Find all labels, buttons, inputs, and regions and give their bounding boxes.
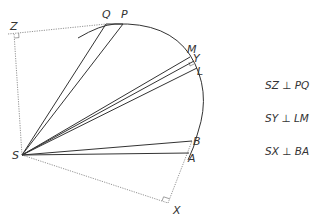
line-SZ	[14, 33, 22, 155]
label-Z: Z	[9, 20, 18, 33]
label-A: A	[187, 152, 196, 165]
orbit-curve	[78, 24, 203, 160]
sector-lines	[22, 24, 197, 155]
label-Y: Y	[193, 52, 201, 65]
label-X: X	[172, 204, 181, 217]
orbit-diagram: Z Q P M Y L S B A X	[0, 0, 316, 222]
line-SM	[22, 57, 190, 155]
label-B: B	[193, 135, 201, 148]
line-ZQ	[8, 24, 106, 34]
line-XA	[168, 141, 192, 203]
right-angle-marks	[15, 33, 195, 201]
line-SY	[22, 61, 194, 155]
relation-SX-BA: SX ⊥ BA	[265, 145, 309, 157]
line-SL	[22, 68, 197, 155]
label-L: L	[197, 65, 203, 78]
relation-SY-LM: SY ⊥ LM	[265, 112, 309, 124]
label-S: S	[12, 149, 19, 162]
relation-SZ-PQ: SZ ⊥ PQ	[265, 79, 309, 91]
label-Q: Q	[102, 8, 111, 21]
right-angle-X	[162, 197, 170, 201]
line-SQ	[22, 24, 106, 155]
line-SP	[22, 24, 123, 155]
construction-lines	[8, 24, 192, 203]
label-P: P	[121, 8, 128, 21]
right-angle-Z	[15, 33, 20, 38]
line-SX	[22, 155, 168, 203]
